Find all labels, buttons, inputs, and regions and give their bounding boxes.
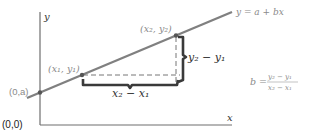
x-axis-label: x: [227, 112, 233, 123]
origin-label: (0,0): [2, 119, 23, 130]
equation-label: y = a + bx: [235, 7, 284, 17]
point-2-label: (x₂, y₂): [140, 23, 172, 34]
slope-numerator: y₂ − y₁: [267, 73, 292, 81]
y-axis-label: y: [43, 11, 50, 22]
run-label: x₂ − x₁: [112, 87, 149, 100]
point-1-label: (x₁, y₁): [48, 63, 80, 74]
point-1-marker: [80, 73, 84, 77]
intercept-label: (0,a): [9, 86, 29, 97]
slope-denominator: x₂ − x₁: [268, 84, 292, 92]
point-2-marker: [174, 33, 178, 37]
slope-diagram: y x (0,0) y = a + bx (0,a) (x₁, y₁) (x₂,…: [0, 0, 311, 133]
slope-lhs: b =: [250, 76, 267, 87]
intercept-point: [38, 90, 42, 94]
rise-label: y₂ − y₁: [187, 51, 225, 64]
